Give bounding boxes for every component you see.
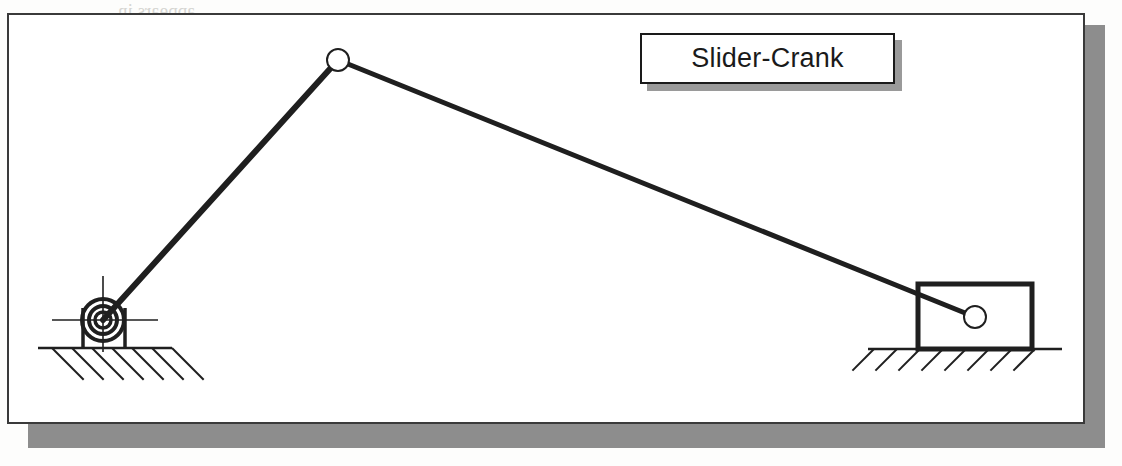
title-box: Slider-Crank (640, 33, 895, 84)
ground-right-hatch (944, 349, 966, 371)
ground-left-hatch (112, 348, 144, 380)
pin-joint-crank-pin (327, 49, 349, 71)
scanned-page-background: appears in mechanism, the Crank-Rocker l… (0, 0, 1122, 466)
slider-crank-diagram (0, 0, 1122, 466)
ground-right-hatch (921, 349, 943, 371)
title-label: Slider-Crank (691, 43, 843, 74)
ground-left (38, 348, 204, 380)
ground-right-hatch (1013, 349, 1035, 371)
ground-left-hatch (132, 348, 164, 380)
ground-right-hatch (852, 349, 874, 371)
ground-left-hatch (172, 348, 204, 380)
ground-right (852, 349, 1062, 371)
ground-right-hatch (898, 349, 920, 371)
link-crank (103, 60, 338, 320)
ground-left-hatch (52, 348, 84, 380)
ground-left-hatch (152, 348, 184, 380)
ground-right-hatch (967, 349, 989, 371)
ground-right-hatch (990, 349, 1012, 371)
mechanism-links (103, 60, 975, 320)
link-coupler (338, 60, 975, 317)
pin-joint-slider-pin (964, 306, 986, 328)
ground-right-hatch (875, 349, 897, 371)
ground-left-hatch (92, 348, 124, 380)
ground-left-hatch (72, 348, 104, 380)
